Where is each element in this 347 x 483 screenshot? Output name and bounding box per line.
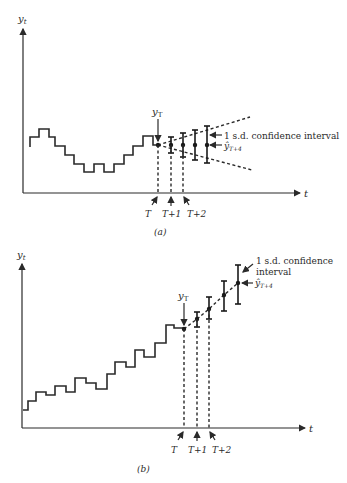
interval-label-line2: interval [256, 267, 291, 277]
panel-caption: (a) [154, 227, 167, 237]
tick-label-T2: T+2 [212, 445, 232, 455]
y-axis-label: yt [16, 249, 26, 262]
panel-caption: (b) [137, 464, 150, 474]
tick-arrow-T [152, 197, 157, 205]
interval-label-line1: 1 s.d. confidence [256, 256, 333, 266]
observed-label: yT [177, 290, 189, 303]
y-axis-label: yt [17, 13, 27, 26]
forecast-point [205, 143, 209, 147]
forecast-label: ŷT+4 [254, 278, 273, 289]
panel-b-trend: yt t yT 1 s.d. confidence interval ŷT+4 … [16, 249, 333, 474]
observed-series [23, 325, 184, 410]
tick-label-T2: T+2 [187, 209, 207, 219]
x-axis-label: t [304, 188, 309, 199]
forecast-point [236, 281, 240, 285]
forecast-point [222, 293, 226, 297]
forecast-label: ŷT+4 [223, 141, 242, 152]
forecast-trend-line [184, 283, 238, 329]
panel-a-constant-mean: yt t yT 1 s.d. confidence interval ŷT+4 … [17, 13, 339, 237]
tick-arrow-T2 [210, 432, 215, 440]
tick-label-T1: T+1 [188, 445, 207, 455]
observed-series [30, 129, 158, 172]
tick-label-T1: T+1 [162, 209, 181, 219]
tick-arrow-T [178, 432, 183, 440]
x-axis-label: t [309, 423, 314, 434]
interval-arrow [243, 264, 253, 272]
forecast-figure: yt t yT 1 s.d. confidence interval ŷT+4 … [0, 0, 347, 483]
interval-label: 1 s.d. confidence interval [224, 131, 339, 141]
tick-arrow-T2 [184, 197, 189, 205]
tick-label-T: T [145, 209, 152, 219]
trend-dashed [184, 283, 238, 329]
observed-label: yT [151, 106, 163, 119]
time-drop-lines [184, 309, 209, 428]
forecast-error-bars [182, 265, 241, 331]
time-drop-lines [158, 145, 183, 193]
forecast-point [193, 143, 197, 147]
tick-label-T: T [171, 445, 178, 455]
